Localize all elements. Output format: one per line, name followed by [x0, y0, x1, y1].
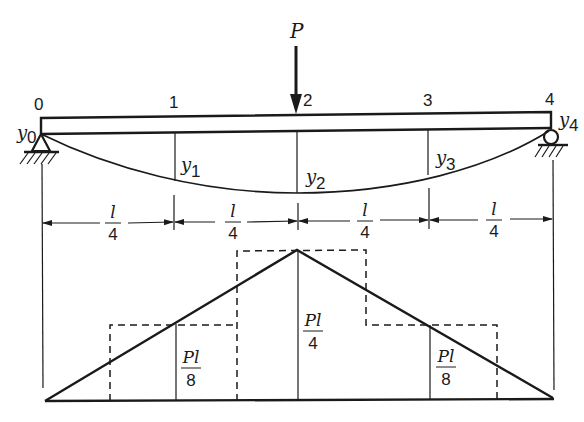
moment-baseline [45, 399, 554, 401]
svg-text:Pl: Pl [437, 346, 455, 366]
svg-text:2: 2 [316, 174, 325, 193]
node-label-2: 2 [303, 91, 312, 110]
stepped-approximation [110, 250, 497, 401]
svg-text:4: 4 [228, 224, 237, 243]
moment-label-2: Pl 4 [303, 310, 323, 353]
moment-label-3: Pl 8 [436, 346, 456, 389]
svg-text:1: 1 [191, 162, 200, 181]
svg-text:l: l [230, 201, 235, 221]
beam [41, 112, 551, 134]
svg-text:4: 4 [569, 116, 578, 135]
load-arrow [290, 46, 302, 114]
deflection-label-4: y 4 [558, 109, 578, 135]
extension-line-0 [42, 164, 43, 388]
svg-text:4: 4 [360, 223, 369, 242]
roller-support [535, 130, 568, 157]
load-label: P [289, 19, 304, 43]
deflection-label-0: y 0 [16, 122, 36, 147]
beam-diagram: P 0 1 2 3 4 y 0 y 1 y [0, 0, 584, 422]
svg-text:Pl: Pl [182, 347, 200, 367]
svg-text:8: 8 [186, 371, 195, 390]
svg-text:8: 8 [441, 370, 450, 389]
deflection-label-2: y 2 [305, 166, 325, 193]
svg-text:l: l [362, 200, 367, 220]
svg-text:4: 4 [308, 334, 317, 353]
node-label-0: 0 [34, 95, 43, 114]
svg-text:l: l [110, 202, 115, 222]
deflection-curve [41, 131, 549, 193]
node-label-4: 4 [545, 90, 554, 109]
dimension-label-1: l 4 [105, 202, 121, 244]
dimension-label-3: l 4 [357, 200, 373, 242]
deflection-label-1: y 1 [180, 154, 200, 181]
node-label-3: 3 [423, 91, 432, 110]
extension-line-4 [553, 160, 554, 390]
deflection-label-3: y 3 [435, 147, 455, 174]
svg-text:4: 4 [108, 225, 117, 244]
svg-text:0: 0 [27, 128, 36, 147]
dimension-label-4: l 4 [486, 199, 502, 241]
dimension-label-2: l 4 [225, 201, 241, 243]
svg-text:3: 3 [446, 155, 455, 174]
svg-text:Pl: Pl [304, 310, 322, 330]
svg-text:l: l [491, 199, 496, 219]
moment-label-1: Pl 8 [181, 347, 201, 390]
svg-text:4: 4 [489, 222, 498, 241]
node-label-1: 1 [169, 93, 178, 112]
